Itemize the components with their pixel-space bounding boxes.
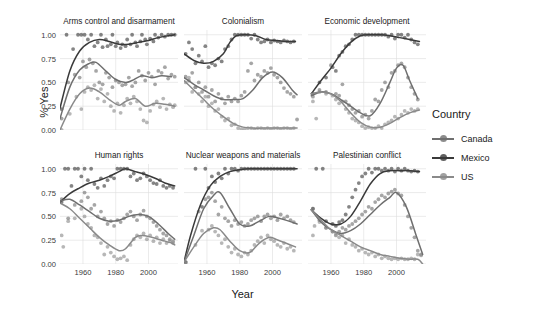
y-tick-label: 0.25 (0, 102, 56, 111)
legend-key-icon (432, 133, 454, 145)
legend: Country CanadaMexicoUS (432, 108, 532, 186)
legend-label: Canada (461, 134, 493, 144)
x-tick-label: 2000 (388, 268, 405, 277)
legend-key-icon (432, 171, 454, 183)
legend-label: US (461, 172, 474, 182)
panel-palestinian-conflict: Palestinian conflict (308, 164, 426, 264)
panel-title: Colonialism (184, 17, 302, 26)
panel-title: Nuclear weapons and materials (184, 151, 302, 160)
y-tick-label: 1.00 (0, 164, 56, 173)
y-tick-label: 0.00 (0, 260, 56, 269)
x-tick-label: 1960 (74, 268, 91, 277)
panel-economic-development: Economic development (308, 30, 426, 130)
panel-nuclear-weapons-and-materials: Nuclear weapons and materials (184, 164, 302, 264)
y-tick-label: 0.50 (0, 212, 56, 221)
x-tick-label: 1960 (322, 268, 339, 277)
x-axis-label: Year (60, 288, 425, 300)
x-tick-label: 2000 (264, 268, 281, 277)
x-tick-label: 2000 (140, 268, 157, 277)
x-tick-label: 1980 (231, 268, 248, 277)
panel-title: Palestinian conflict (308, 151, 426, 160)
facet-chart-figure: % Yes Year Arms control and disarmamentC… (0, 0, 533, 311)
panel-colonialism: Colonialism (184, 30, 302, 130)
plot-area (60, 30, 178, 130)
legend-key-icon (432, 152, 454, 164)
legend-item-mexico[interactable]: Mexico (432, 148, 532, 167)
panel-title: Economic development (308, 17, 426, 26)
x-tick-label: 1960 (198, 268, 215, 277)
panel-title: Human rights (60, 151, 178, 160)
legend-label: Mexico (461, 153, 490, 163)
y-tick-label: 1.00 (0, 30, 56, 39)
legend-items: CanadaMexicoUS (432, 129, 532, 186)
x-tick-label: 1980 (355, 268, 372, 277)
x-tick-label: 1980 (107, 268, 124, 277)
legend-item-canada[interactable]: Canada (432, 129, 532, 148)
plot-area (184, 164, 302, 264)
panel-human-rights: Human rights (60, 164, 178, 264)
plot-area (184, 30, 302, 130)
legend-title: Country (432, 108, 532, 120)
panel-arms-control-and-disarmament: Arms control and disarmament (60, 30, 178, 130)
y-tick-label: 0.00 (0, 126, 56, 135)
y-tick-label: 0.25 (0, 236, 56, 245)
plot-area (60, 164, 178, 264)
y-tick-label: 0.75 (0, 188, 56, 197)
plot-area (308, 164, 426, 264)
y-tick-label: 0.50 (0, 78, 56, 87)
y-tick-label: 0.75 (0, 54, 56, 63)
legend-item-us[interactable]: US (432, 167, 532, 186)
panel-title: Arms control and disarmament (60, 17, 178, 26)
plot-area (308, 30, 426, 130)
